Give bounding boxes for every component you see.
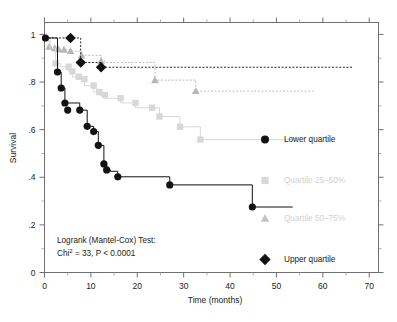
data-point-circle (249, 203, 256, 210)
data-point-square (102, 92, 108, 98)
data-point-circle (114, 173, 121, 180)
x-tick-label: 40 (225, 281, 235, 291)
data-point-square (149, 105, 155, 111)
y-tick-label: .8 (28, 77, 35, 87)
x-tick-label: 10 (86, 281, 96, 291)
data-point-square (177, 124, 183, 130)
data-point-square (117, 95, 123, 101)
x-tick-label: 30 (179, 281, 189, 291)
data-point-circle (103, 166, 110, 173)
data-point-circle (64, 107, 71, 114)
y-tick-label: 0 (31, 268, 36, 278)
data-point-circle (95, 142, 102, 149)
y-tick-label: .2 (28, 220, 35, 230)
data-point-circle (61, 99, 68, 106)
y-axis-title: Survival (8, 133, 18, 163)
x-tick-label: 0 (42, 281, 47, 291)
legend-label: Quartile 25–50% (284, 176, 345, 185)
data-point-square (90, 82, 96, 88)
x-axis-title: Time (months) (188, 295, 243, 305)
data-point-circle (58, 84, 65, 91)
x-tick-label: 70 (364, 281, 374, 291)
y-tick-label: .6 (28, 125, 35, 135)
data-point-square (156, 113, 162, 119)
legend-marker-square (261, 177, 268, 184)
legend-label: Lower quartile (284, 135, 336, 144)
data-point-circle (166, 181, 173, 188)
kaplan-meier-plot: 0102030405060700.2.4.6.81 Survival Time … (0, 0, 397, 322)
data-point-circle (90, 128, 97, 135)
legend-label: Upper quartile (284, 255, 336, 264)
data-point-square (96, 89, 102, 95)
x-tick-label: 20 (133, 281, 143, 291)
data-point-circle (84, 123, 91, 130)
survival-chart-figure: 0102030405060700.2.4.6.81 Survival Time … (0, 0, 397, 322)
x-tick-label: 50 (272, 281, 282, 291)
y-tick-label: .4 (28, 172, 35, 182)
data-point-circle (54, 68, 61, 75)
data-point-square (69, 68, 75, 74)
legend-marker-circle (261, 136, 269, 144)
data-point-square (132, 100, 138, 106)
x-tick-label: 60 (318, 281, 328, 291)
data-point-square (197, 136, 203, 142)
chi-square-value: Chi2 = 33, P < 0.0001 (57, 248, 136, 258)
data-point-square (76, 74, 82, 80)
data-point-circle (76, 107, 83, 114)
legend-label: Quartile 50–75% (284, 214, 345, 223)
logrank-test-label: Logrank (Mantel-Cox) Test: (57, 236, 156, 245)
y-tick-label: 1 (31, 30, 36, 40)
data-point-square (81, 76, 87, 82)
data-point-circle (42, 34, 49, 41)
